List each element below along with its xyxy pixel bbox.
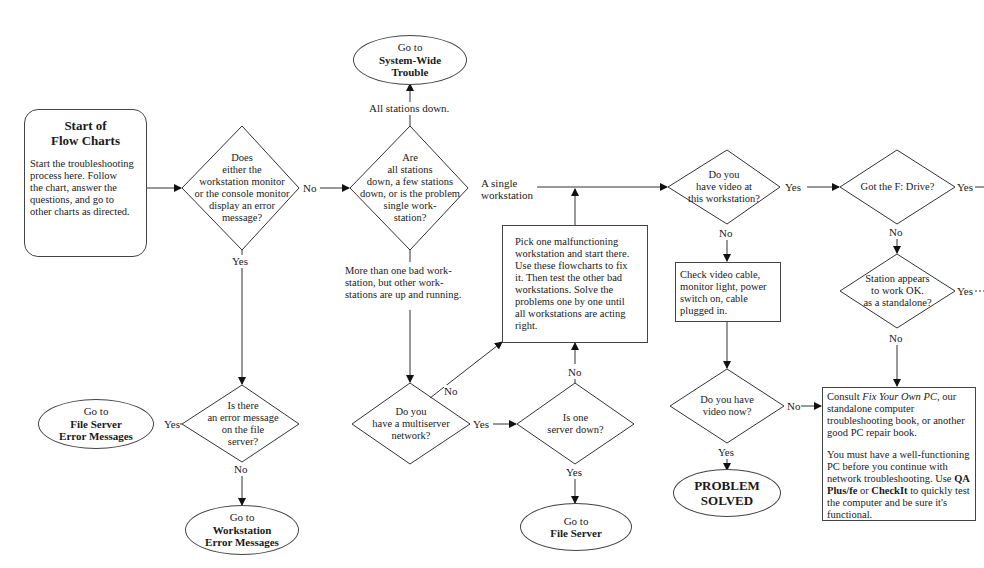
- label-single-workstation: A single workstation: [481, 177, 533, 201]
- start-title-line1: Start of: [30, 118, 141, 133]
- terminal-file-server-error-messages[interactable]: Go to File Server Error Messages: [38, 399, 154, 449]
- label-yes-server-down: Yes: [566, 466, 582, 479]
- decision-standalone: Station appears to work OK. as a standal…: [840, 254, 955, 328]
- label-no-server-down: No: [568, 366, 581, 379]
- decision-server-down: Is one server down?: [517, 385, 634, 463]
- terminal-workstation-error-messages[interactable]: Go to Workstation Error Messages: [185, 505, 299, 555]
- box-pick-one-workstation: Pick one malfunctioning workstation and …: [502, 225, 648, 343]
- decision-file-server-error: Is there an error message on the file se…: [185, 385, 301, 463]
- label-yes-video-now: Yes: [718, 446, 734, 459]
- label-no-standalone: No: [889, 332, 902, 345]
- start-box: Start of Flow Charts Start the troublesh…: [24, 109, 147, 257]
- label-no-error-message: No: [303, 182, 316, 195]
- label-no-multiserver: No: [444, 385, 457, 398]
- decision-video-here: Do you have video at this workstation?: [668, 150, 780, 224]
- start-title-line2: Flow Charts: [30, 133, 141, 148]
- decision-scope: Are all stations down, a few stations do…: [350, 126, 470, 250]
- label-no-f-drive: No: [889, 226, 902, 239]
- terminal-file-server[interactable]: Go to File Server: [520, 503, 632, 551]
- label-yes-f-drive: Yes: [957, 181, 973, 194]
- start-body: Start the troubleshooting process here. …: [30, 158, 141, 218]
- decision-error-message: Does either the workstation monitor or t…: [182, 126, 302, 250]
- label-no-video-here: No: [719, 227, 732, 240]
- decision-video-now: Do you have video now?: [670, 369, 784, 443]
- label-more-than-one: More than one bad work- station, but oth…: [345, 265, 461, 301]
- terminal-problem-solved: PROBLEM SOLVED: [673, 469, 781, 517]
- label-all-stations-down: All stations down.: [369, 102, 449, 115]
- consult-paragraph-1: Consult Fix Your Own PC, our standalone …: [827, 391, 971, 439]
- box-consult: Consult Fix Your Own PC, our standalone …: [822, 387, 976, 521]
- label-yes-video-here: Yes: [785, 181, 801, 194]
- box-check-video: Check video cable, monitor light, power …: [675, 262, 781, 322]
- decision-f-drive: Got the F: Drive?: [840, 150, 955, 224]
- label-yes-error-message: Yes: [232, 255, 248, 268]
- terminal-system-wide-trouble[interactable]: Go to System-Wide Trouble: [353, 35, 467, 85]
- label-no-video-now: No: [787, 400, 800, 413]
- label-yes-standalone: Yes: [957, 285, 973, 298]
- consult-paragraph-2: You must have a well-functioning PC befo…: [827, 449, 971, 521]
- label-yes-file-server-error: Yes: [164, 418, 180, 431]
- label-no-file-server-error: No: [234, 463, 247, 476]
- label-yes-multiserver: Yes: [473, 418, 489, 431]
